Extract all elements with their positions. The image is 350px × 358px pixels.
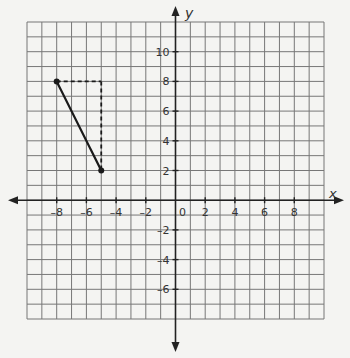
y-tick-label: 10 <box>156 46 170 59</box>
y-axis-label: y <box>185 5 193 21</box>
x-tick-label: 0 <box>179 206 186 219</box>
x-tick-label: –6 <box>80 206 93 219</box>
x-tick-label: –4 <box>110 206 123 219</box>
y-tick-label: 4 <box>163 135 170 148</box>
y-tick-label: 6 <box>163 105 170 118</box>
x-tick-label: 4 <box>231 206 238 219</box>
y-tick-label: –6 <box>157 283 170 296</box>
y-tick-label: –2 <box>157 224 170 237</box>
arrow-left-icon <box>8 196 18 204</box>
x-tick-label: 2 <box>202 206 209 219</box>
x-tick-label: 6 <box>261 206 268 219</box>
arrow-down-icon <box>172 342 180 352</box>
y-tick-label: 2 <box>163 165 170 178</box>
x-tick-label: 8 <box>291 206 298 219</box>
coordinate-plane: –8–6–4–202468–6–4–2246810 <box>0 0 350 358</box>
x-tick-label: –8 <box>50 206 63 219</box>
x-axis-label: x <box>329 186 337 201</box>
x-tick-label: –2 <box>140 206 153 219</box>
y-tick-label: 8 <box>163 75 170 88</box>
arrow-up-icon <box>172 6 180 16</box>
data-point <box>98 168 104 174</box>
data-point <box>54 78 60 84</box>
y-tick-label: –4 <box>157 254 170 267</box>
